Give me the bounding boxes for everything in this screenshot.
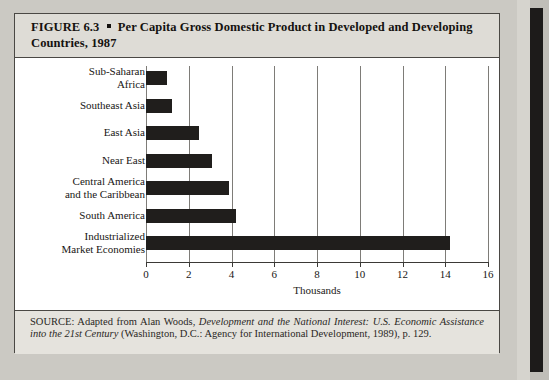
gridline	[360, 66, 361, 262]
x-axis-tick	[403, 262, 404, 267]
bar	[146, 154, 212, 168]
source-publication: (Washington, D.C.: Agency for Internatio…	[121, 328, 400, 339]
gridline	[317, 66, 318, 262]
x-axis-tick	[189, 262, 190, 267]
category-label: South America	[0, 209, 145, 222]
x-axis-tick	[360, 262, 361, 267]
x-axis-tick-label: 16	[476, 268, 500, 280]
category-label-line: Market Economies	[0, 243, 145, 256]
bar	[146, 71, 167, 85]
source-page: p. 129.	[402, 328, 431, 339]
x-axis-tick	[488, 262, 489, 267]
source-text: SOURCE: Adapted from Alan Woods, Develop…	[30, 316, 484, 341]
bar	[146, 209, 236, 223]
bar	[146, 181, 229, 195]
category-label-line: Near East	[0, 154, 145, 167]
category-label: Central Americaand the Caribbean	[0, 175, 145, 200]
category-label: East Asia	[0, 126, 145, 139]
x-axis-tick	[445, 262, 446, 267]
x-axis-tick-label: 6	[262, 268, 286, 280]
figure-plot-area: Thousands 0246810121416Sub-SaharanAfrica…	[15, 58, 499, 310]
scanned-page-background: FIGURE 6.3 Per Capita Gross Domestic Pro…	[0, 0, 549, 380]
bar	[146, 99, 172, 113]
gridline	[403, 66, 404, 262]
x-axis-tick-label: 10	[348, 268, 372, 280]
category-label-line: Central America	[0, 175, 145, 188]
x-axis-tick-label: 0	[134, 268, 158, 280]
figure-container: FIGURE 6.3 Per Capita Gross Domestic Pro…	[14, 13, 500, 353]
category-label-line: Industrialized	[0, 230, 145, 243]
gridline	[232, 66, 233, 262]
bar	[146, 236, 450, 250]
gridline	[445, 66, 446, 262]
category-label: IndustrializedMarket Economies	[0, 230, 145, 255]
x-axis-tick	[232, 262, 233, 267]
figure-number: FIGURE 6.3	[31, 20, 99, 34]
square-bullet-icon	[107, 24, 111, 28]
source-lead: Adapted from Alan Woods,	[77, 316, 195, 327]
figure-title: FIGURE 6.3 Per Capita Gross Domestic Pro…	[31, 20, 483, 51]
category-label-line: South America	[0, 209, 145, 222]
book-spine-shadow	[530, 8, 543, 372]
category-label-line: Sub-Saharan	[0, 65, 145, 78]
x-axis-tick	[274, 262, 275, 267]
figure-header-band: FIGURE 6.3 Per Capita Gross Domestic Pro…	[15, 14, 499, 58]
category-label-line: Southeast Asia	[0, 99, 145, 112]
category-label: Near East	[0, 154, 145, 167]
page-gutter	[517, 0, 530, 380]
category-label-line: and the Caribbean	[0, 188, 145, 201]
figure-source-note: SOURCE: Adapted from Alan Woods, Develop…	[15, 310, 499, 354]
category-label-line: East Asia	[0, 126, 145, 139]
x-axis-tick-label: 2	[177, 268, 201, 280]
category-label: Southeast Asia	[0, 99, 145, 112]
x-axis-tick-label: 8	[305, 268, 329, 280]
bar	[146, 126, 199, 140]
gridline	[488, 66, 489, 262]
gridline	[274, 66, 275, 262]
category-label: Sub-SaharanAfrica	[0, 65, 145, 90]
x-axis-tick	[146, 262, 147, 267]
category-label-line: Africa	[0, 78, 145, 91]
x-axis-tick-label: 14	[433, 268, 457, 280]
x-axis-tick-label: 4	[220, 268, 244, 280]
bar-chart: Thousands 0246810121416Sub-SaharanAfrica…	[15, 58, 499, 310]
x-axis-tick-label: 12	[391, 268, 415, 280]
x-axis-tick	[317, 262, 318, 267]
source-prefix: SOURCE:	[30, 316, 74, 327]
x-axis-title: Thousands	[146, 284, 488, 296]
